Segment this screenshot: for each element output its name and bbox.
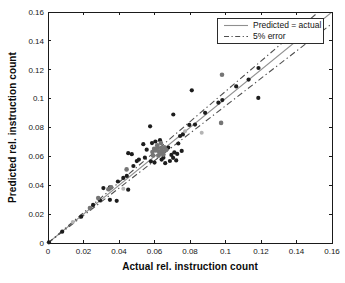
data-point <box>88 206 93 211</box>
x-tick-label: 0.16 <box>324 247 340 256</box>
data-point <box>216 101 220 105</box>
y-tick-label: 0.14 <box>28 37 44 46</box>
data-point <box>149 159 153 163</box>
data-point <box>126 188 130 192</box>
y-tick-label: 0.1 <box>33 94 45 103</box>
data-point <box>171 112 175 116</box>
data-point <box>159 141 164 146</box>
data-point <box>200 131 204 135</box>
data-point <box>203 111 207 115</box>
legend-row-identity: Predicted = actual <box>223 20 323 31</box>
data-point <box>148 124 152 128</box>
data-point <box>247 78 251 82</box>
x-tick-label: 0.02 <box>76 247 92 256</box>
data-point <box>121 187 125 191</box>
x-tick-label: 0 <box>46 247 51 256</box>
data-point <box>108 198 112 202</box>
legend-label-identity: Predicted = actual <box>253 20 321 31</box>
data-point <box>143 156 147 160</box>
data-point <box>145 148 149 152</box>
data-point <box>174 158 178 162</box>
data-point <box>96 196 101 201</box>
data-point <box>193 123 197 127</box>
data-point <box>60 230 64 234</box>
dashdot-line-swatch-icon <box>223 34 249 39</box>
data-point <box>176 141 180 145</box>
x-tick-label: 0.06 <box>147 247 163 256</box>
legend-row-error: 5% error <box>223 31 323 42</box>
data-point <box>190 88 194 92</box>
data-point <box>256 66 260 70</box>
data-point <box>153 139 157 143</box>
x-tick-label: 0.04 <box>111 247 127 256</box>
data-point <box>125 174 129 178</box>
scatter-plot-figure: 000.020.020.040.040.060.060.080.080.10.1… <box>0 0 345 283</box>
y-tick-label: 0.08 <box>28 123 44 132</box>
data-point <box>47 240 51 244</box>
data-point <box>126 151 130 155</box>
legend-label-error: 5% error <box>253 31 286 42</box>
x-tick-label: 0.08 <box>182 247 198 256</box>
x-tick-label: 0.1 <box>220 247 232 256</box>
x-tick-label: 0.14 <box>289 247 305 256</box>
data-point <box>163 161 167 165</box>
data-point <box>168 159 172 163</box>
data-point <box>130 152 134 156</box>
data-point <box>220 73 225 78</box>
y-tick-label: 0.06 <box>28 152 44 161</box>
data-point <box>161 152 166 157</box>
data-point <box>234 84 238 88</box>
data-point <box>71 220 75 224</box>
x-axis-label: Actual rel. instruction count <box>48 261 332 272</box>
data-point <box>180 149 184 153</box>
data-point <box>101 186 105 190</box>
data-point <box>220 98 224 102</box>
data-point <box>116 179 120 183</box>
y-tick-label: 0 <box>40 239 45 248</box>
y-tick-label: 0.04 <box>28 181 44 190</box>
data-point <box>124 167 129 172</box>
y-tick-label: 0.12 <box>28 66 44 75</box>
solid-line-swatch-icon <box>223 23 249 28</box>
data-point <box>187 123 191 127</box>
data-point <box>151 153 156 158</box>
data-point <box>141 142 145 146</box>
data-point <box>152 161 156 165</box>
data-point <box>131 164 135 168</box>
legend: Predicted = actual 5% error <box>217 18 324 44</box>
data-point <box>164 148 169 153</box>
y-axis-label: Predicted rel. instruction count <box>7 12 18 243</box>
data-point <box>91 203 95 207</box>
y-tick-label: 0.16 <box>28 8 44 17</box>
y-tick-label: 0.02 <box>28 210 44 219</box>
data-point <box>115 199 119 203</box>
data-point <box>183 129 187 133</box>
x-tick-label: 0.12 <box>253 247 269 256</box>
data-point <box>79 215 83 219</box>
data-point <box>137 158 141 162</box>
data-point <box>175 152 179 156</box>
data-point <box>219 121 224 126</box>
data-point <box>109 185 114 190</box>
data-point <box>256 96 260 100</box>
